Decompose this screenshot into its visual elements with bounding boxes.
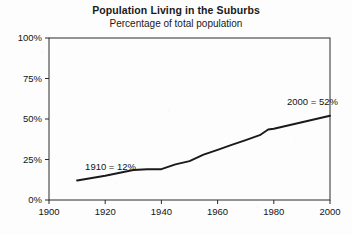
x-axis-tick-label: 1900: [38, 206, 59, 217]
x-axis-tick-labels: 190019201940196019802000: [38, 206, 340, 217]
x-axis-tick-label: 2000: [319, 206, 340, 217]
x-axis-tick-label: 1960: [207, 206, 228, 217]
y-axis-tick-label: 0%: [28, 194, 42, 205]
y-axis-tick-label: 75%: [23, 73, 43, 84]
y-axis-tick-label: 25%: [23, 154, 43, 165]
y-axis-ticks: [45, 38, 49, 200]
y-axis-tick-label: 100%: [18, 32, 43, 43]
x-axis-ticks: [49, 200, 330, 204]
x-axis-tick-label: 1980: [263, 206, 284, 217]
x-axis-tick-label: 1920: [95, 206, 116, 217]
chart-container: Population Living in the Suburbs Percent…: [0, 0, 352, 235]
chart-annotation-label: 1910 = 12%: [85, 161, 137, 172]
line-chart-plot: 0%25%50%75%100% 190019201940196019802000…: [0, 0, 352, 235]
plot-frame: [49, 38, 330, 200]
chart-annotation-label: 2000 = 52%: [287, 96, 339, 107]
chart-annotations: 1910 = 12%2000 = 52%: [85, 96, 338, 172]
y-axis-tick-labels: 0%25%50%75%100%: [18, 32, 43, 205]
y-axis-tick-label: 50%: [23, 113, 43, 124]
x-axis-tick-label: 1940: [151, 206, 172, 217]
